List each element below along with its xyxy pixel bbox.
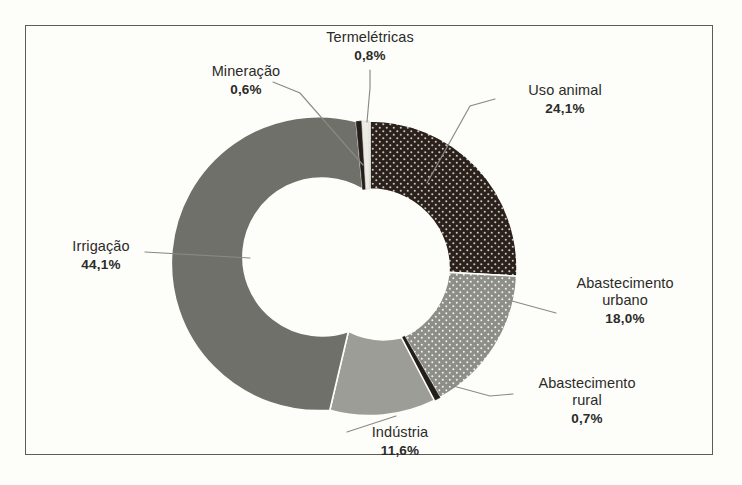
label-termeletricas-name: Termelétricas xyxy=(294,29,446,46)
label-irrigacao-name: Irrigação xyxy=(53,238,149,255)
label-uso-animal-value: 24,1% xyxy=(500,101,630,117)
label-industria-name: Indústria xyxy=(340,424,460,441)
leader-termeletricas xyxy=(367,70,370,122)
label-mineracao: Mineração 0,6% xyxy=(181,63,311,98)
label-uso-animal-name: Uso animal xyxy=(500,82,630,99)
label-irrigacao-value: 44,1% xyxy=(53,257,149,273)
slice-irrigacao[interactable] xyxy=(171,117,362,411)
label-mineracao-name: Mineração xyxy=(181,63,311,80)
label-termeletricas: Termelétricas 0,8% xyxy=(294,29,446,64)
label-abastecimento-urbano: Abastecimento urbano 18,0% xyxy=(549,275,701,327)
slice-uso-animal[interactable] xyxy=(370,121,517,276)
label-abastecimento-urbano-line2: urbano xyxy=(549,292,701,309)
label-industria-value: 11,6% xyxy=(340,443,460,459)
label-abastecimento-urbano-value: 18,0% xyxy=(549,311,701,327)
label-industria: Indústria 11,6% xyxy=(340,424,460,459)
figure-page: Termelétricas 0,8% Mineração 0,6% Uso an… xyxy=(0,0,742,485)
label-abastecimento-urbano-line1: Abastecimento xyxy=(549,275,701,292)
label-irrigacao: Irrigação 44,1% xyxy=(53,238,149,273)
label-termeletricas-value: 0,8% xyxy=(294,48,446,64)
label-abastecimento-rural-value: 0,7% xyxy=(511,411,663,427)
label-abastecimento-rural-line2: rural xyxy=(511,392,663,409)
label-abastecimento-rural: Abastecimento rural 0,7% xyxy=(511,375,663,427)
label-abastecimento-rural-line1: Abastecimento xyxy=(511,375,663,392)
label-uso-animal: Uso animal 24,1% xyxy=(500,82,630,117)
label-mineracao-value: 0,6% xyxy=(181,82,311,98)
